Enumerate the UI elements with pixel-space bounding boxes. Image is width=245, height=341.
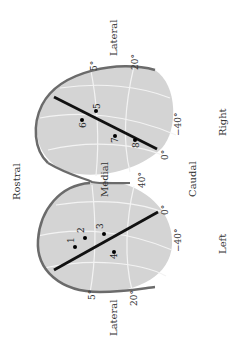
point-label-7: 7 <box>110 137 120 143</box>
point-2 <box>83 236 87 240</box>
point-label-1: 1 <box>66 237 76 243</box>
deg-left-0: 0° <box>160 205 170 215</box>
right-hemisphere-shape <box>37 66 174 174</box>
label-caudal: Caudal <box>187 161 198 197</box>
point-label-4: 4 <box>109 253 119 259</box>
point-1 <box>73 245 77 249</box>
point-6 <box>80 118 84 122</box>
deg-left-minus40: −40° <box>173 229 183 253</box>
point-label-3: 3 <box>95 223 105 229</box>
deg-right-0: 0° <box>160 150 170 160</box>
point-label-6: 6 <box>78 122 88 128</box>
deg-left-20: 20° <box>129 290 139 306</box>
left-hemisphere <box>38 182 172 294</box>
label-right: Right <box>217 108 228 136</box>
point-label-8: 8 <box>131 142 141 148</box>
point-8 <box>133 138 137 142</box>
label-rostral: Rostral <box>11 163 22 200</box>
point-label-2: 2 <box>76 227 86 233</box>
label-left: Left <box>217 234 228 254</box>
deg-left-40: 40° <box>137 172 147 188</box>
hemisphere-diagram: Rostral Caudal Medial Lateral Lateral Ri… <box>0 0 245 341</box>
deg-right-20: 20° <box>130 54 140 70</box>
deg-left-5: 5° <box>87 290 97 300</box>
point-label-5: 5 <box>92 103 102 109</box>
label-lateral-right: Lateral <box>108 20 119 56</box>
label-medial: Medial <box>99 162 110 197</box>
right-hemisphere <box>36 66 176 176</box>
label-lateral-left: Lateral <box>108 300 119 336</box>
deg-right-minus40: −40° <box>173 113 183 137</box>
deg-right-5: 5° <box>89 61 99 71</box>
point-3 <box>102 232 106 236</box>
